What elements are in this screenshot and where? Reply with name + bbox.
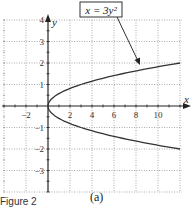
equation-annotation: x = 3y² (80, 2, 140, 65)
annotation-pointer-line (117, 17, 138, 61)
figure-caption: Figure 2 (0, 196, 37, 207)
y-tick-label: −2 (34, 144, 44, 154)
y-tick-label: −1 (34, 123, 44, 133)
y-axis-label: y (51, 16, 57, 28)
subfigure-label: (a) (90, 190, 103, 205)
x-tick-label: 6 (112, 110, 117, 120)
x-tick-label: −2 (21, 110, 31, 120)
y-axis-arrow-icon (45, 14, 51, 22)
y-tick-label: 2 (40, 58, 45, 68)
chart-plot: −2246810−3−2−11234 x = 3y² x y (0, 0, 192, 208)
x-axis-label: x (183, 93, 189, 105)
axes (2, 14, 191, 192)
x-tick-label: 4 (90, 110, 95, 120)
y-tick-label: 1 (40, 80, 45, 90)
x-tick-label: 2 (68, 110, 73, 120)
y-tick-label: 3 (40, 37, 45, 47)
x-tick-label: 8 (134, 110, 139, 120)
x-tick-label: 10 (154, 110, 164, 120)
annotation-text: x = 3y² (84, 4, 117, 16)
y-tick-label: 4 (40, 15, 45, 25)
y-tick-label: −3 (34, 166, 44, 176)
